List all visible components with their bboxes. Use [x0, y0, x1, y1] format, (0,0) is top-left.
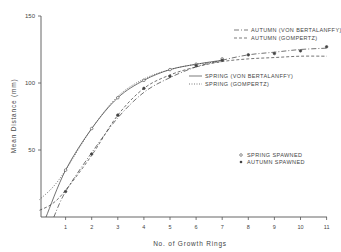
y-tick-label: 50: [28, 147, 35, 153]
x-tick-label: 9: [273, 224, 276, 230]
legend-spring-gomp-label: SPRING (GOMPERTZ): [205, 81, 269, 87]
legend-autumn-spawned-label: AUTUMN SPAWNED: [247, 159, 305, 165]
y-tick-label: 100: [25, 80, 36, 86]
x-tick-label: 8: [247, 224, 250, 230]
legend-points: SPRING SPAWNED AUTUMN SPAWNED: [240, 152, 305, 165]
data-point: [90, 127, 93, 130]
data-point: [273, 52, 276, 55]
axes: [41, 16, 327, 217]
legend-autumn-vb-label: AUTUMN (VON BERTALANFFY): [251, 27, 341, 33]
data-point: [169, 75, 172, 78]
data-point: [143, 79, 146, 82]
growth-chart: 50100150 1234567891011 Mean Distance (mm…: [0, 0, 341, 252]
data-point: [221, 59, 224, 62]
x-tick-label: 4: [142, 224, 145, 230]
data-point: [195, 64, 198, 67]
legend-spring-vb-label: SPRING (VON BERTALANFFY): [205, 73, 293, 79]
legend-spring-spawned-marker: [240, 154, 243, 157]
data-point: [64, 190, 67, 193]
x-tick-label: 2: [90, 224, 93, 230]
legend-spring-spawned-label: SPRING SPAWNED: [247, 152, 302, 158]
legend-autumn: AUTUMN (VON BERTALANFFY) AUTUMN (GOMPERT…: [234, 27, 341, 41]
series-line: [40, 56, 327, 210]
y-tick-label: 150: [25, 13, 36, 19]
series-line: [40, 62, 223, 200]
data-point: [143, 87, 146, 90]
data-point: [117, 96, 120, 99]
data-points: [64, 46, 328, 193]
data-point: [299, 50, 302, 53]
x-tick-label: 7: [221, 224, 224, 230]
x-axis-label: No. of Growth Rings: [153, 240, 227, 248]
x-tick-label: 5: [168, 224, 171, 230]
x-tick-label: 1: [64, 224, 67, 230]
data-point: [90, 153, 93, 156]
legend-spring: SPRING (VON BERTALANFFY) SPRING (GOMPERT…: [189, 73, 293, 87]
legend-autumn-gomp-label: AUTUMN (GOMPERTZ): [251, 35, 318, 41]
x-tick-label: 3: [116, 224, 119, 230]
x-tick-label: 6: [195, 224, 198, 230]
legend-autumn-spawned-marker: [240, 161, 243, 164]
y-ticks: 50100150: [25, 13, 41, 153]
data-point: [247, 54, 250, 57]
data-point: [169, 68, 172, 71]
series-line: [46, 60, 222, 217]
y-axis-label: Mean Distance (mm): [10, 79, 18, 154]
x-tick-label: 10: [297, 224, 303, 230]
data-point: [117, 114, 120, 117]
x-ticks: 1234567891011: [64, 217, 329, 230]
data-point: [325, 46, 328, 49]
data-point: [64, 169, 67, 172]
x-tick-label: 11: [324, 224, 330, 230]
